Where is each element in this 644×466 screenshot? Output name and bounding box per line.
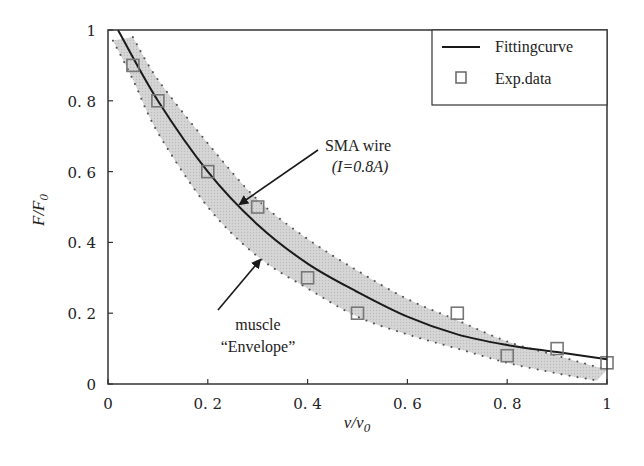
y-axis-ticks: 00. 20. 40. 60. 81	[67, 22, 113, 394]
legend-label-fittingcurve: Fittingcurve	[495, 38, 573, 56]
y-tick-label: 0. 4	[67, 234, 96, 252]
legend-label-expdata: Exp.data	[495, 70, 551, 88]
y-tick-label: 0	[86, 376, 96, 394]
exp-data-markers	[127, 59, 613, 368]
annotation-sma-wire: SMA wire (I=0.8A)	[240, 137, 391, 204]
x-tick-label: 0. 8	[493, 395, 522, 413]
arrow-icon	[240, 150, 318, 204]
x-tick-label: 0. 6	[393, 395, 422, 413]
y-tick-label: 0. 8	[67, 93, 96, 111]
sma-label: SMA wire	[325, 137, 391, 154]
y-tick-label: 0. 6	[67, 164, 96, 182]
x-tick-label: 0	[103, 395, 113, 413]
legend: Fittingcurve Exp.data	[432, 30, 607, 105]
x-tick-label: 0. 2	[193, 395, 222, 413]
x-tick-label: 0. 4	[293, 395, 322, 413]
chart: 00. 20. 40. 60. 81 00. 20. 40. 60. 81 v/…	[0, 0, 644, 466]
sma-current-label: (I=0.8A)	[332, 158, 389, 176]
x-axis-label: v/v0	[344, 413, 371, 435]
muscle-label: muscle	[235, 316, 280, 333]
y-tick-label: 1	[86, 22, 96, 40]
x-tick-label: 1	[602, 395, 612, 413]
y-axis-label: F/F0	[29, 194, 51, 228]
y-tick-label: 0. 2	[67, 305, 96, 323]
envelope-label: “Envelope”	[221, 338, 296, 356]
arrow-icon	[218, 260, 260, 310]
exp-data-point	[451, 307, 463, 319]
